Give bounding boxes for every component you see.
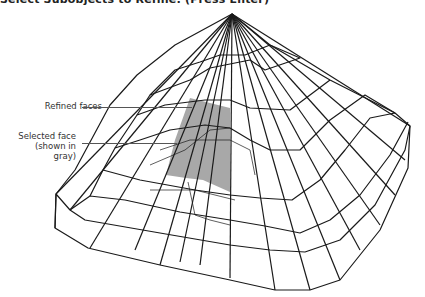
callout-selected-face: Selected face (shown in gray): [10, 131, 76, 161]
callout-refined-faces: Refined faces: [44, 101, 102, 111]
callout-selected-label: Selected face: [10, 131, 76, 141]
leader-line-refined: [82, 107, 192, 108]
callout-refined-label: Refined faces: [45, 101, 102, 111]
mesh-wireframe: [55, 14, 410, 290]
callout-selected-sublabel: (shown in gray): [10, 141, 76, 161]
leader-line-selected: [82, 143, 177, 144]
